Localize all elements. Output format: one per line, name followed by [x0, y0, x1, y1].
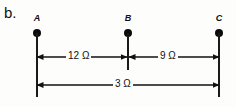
resistance-diagram-figure: b. A B C 12 Ω 9 Ω 3 Ω [0, 0, 236, 107]
dimension-label-ac: 3 Ω [113, 79, 133, 89]
dimension-label-bc: 9 Ω [158, 51, 178, 61]
dimension-label-ab: 12 Ω [66, 51, 91, 61]
dimension-arrows [0, 0, 236, 107]
